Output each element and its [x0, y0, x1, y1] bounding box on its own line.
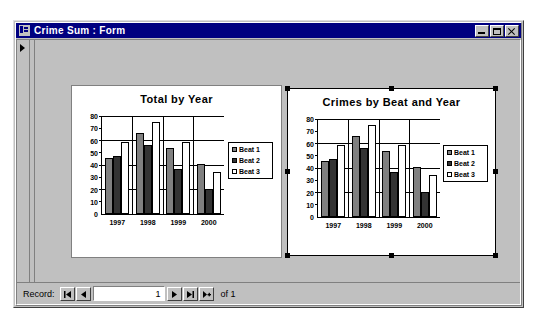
- chart1-bar-beat-2-1997: [113, 156, 121, 214]
- window-title: Crime Sum : Form: [34, 25, 475, 36]
- current-record-input[interactable]: [93, 286, 165, 301]
- chart2-bar-beat-2-1998: [360, 148, 368, 217]
- chart2-legend-item-beat-3: Beat 3: [447, 171, 485, 178]
- form-client-area: Total by Year 80 70 60 50 40 30 20 10 0: [16, 39, 521, 305]
- chart-crimes-by-beat-and-year[interactable]: Crimes by Beat and Year 80 70 60 50 40 3…: [287, 88, 496, 256]
- chart1-legend: Beat 1Beat 2Beat 3: [228, 142, 273, 179]
- legend-swatch-icon: [232, 158, 237, 163]
- chart2-ytick-20: 20: [306, 189, 314, 196]
- chart2-bar-beat-2-2000: [421, 192, 429, 217]
- close-button[interactable]: [505, 25, 519, 37]
- chart2-group-1998: [349, 119, 380, 217]
- chart1-group-1997: [102, 116, 133, 214]
- new-record-button[interactable]: [199, 287, 214, 301]
- minimize-icon: [478, 32, 485, 34]
- legend-swatch-icon: [447, 161, 452, 166]
- chart1-bar-beat-1-2000: [197, 164, 205, 214]
- chart1-legend-item-beat-3: Beat 3: [232, 168, 270, 175]
- chart1-bar-beat-3-1999: [182, 142, 190, 214]
- record-selector-arrow-icon: [20, 44, 25, 52]
- chart2-group-1997: [318, 119, 349, 217]
- resize-handle-top-right[interactable]: [493, 86, 498, 91]
- chart2-y-axis-labels: 80 70 60 50 40 30 20 10 0: [294, 119, 314, 217]
- chart1-bar-beat-1-1997: [105, 158, 113, 214]
- chart1-ytick-70: 70: [90, 125, 98, 132]
- chart2-group-1999: [380, 119, 411, 217]
- new-record-icon: [202, 290, 211, 299]
- legend-swatch-icon: [232, 147, 237, 152]
- chart1-title: Total by Year: [72, 93, 281, 105]
- chart2-xlabel-1998: 1998: [349, 222, 380, 229]
- chart1-x-axis-labels: 1997199819992000: [102, 219, 224, 226]
- form-window: Crime Sum : Form Total by Year: [13, 20, 524, 308]
- screen: Crime Sum : Form Total by Year: [0, 0, 539, 324]
- chart2-ytick-30: 30: [306, 177, 314, 184]
- legend-label: Beat 2: [454, 160, 475, 167]
- chart1-bar-groups: [102, 116, 224, 214]
- chart2-ytick-40: 40: [306, 165, 314, 172]
- chart2-legend-item-beat-2: Beat 2: [447, 160, 485, 167]
- chart2-bar-beat-2-1997: [329, 159, 337, 217]
- legend-label: Beat 1: [239, 146, 260, 153]
- chart2-xlabel-2000: 2000: [410, 222, 441, 229]
- chart1-ytick-0: 0: [94, 211, 98, 218]
- chart2-bar-beat-3-1997: [337, 145, 345, 217]
- chart2-xlabel-1999: 1999: [379, 222, 410, 229]
- chart2-bar-beat-3-1998: [368, 125, 376, 217]
- form-left-divider: [34, 40, 35, 282]
- next-record-icon: [170, 290, 179, 299]
- chart1-ytick-10: 10: [90, 198, 98, 205]
- last-record-icon: [186, 290, 195, 299]
- chart2-ytick-70: 70: [306, 128, 314, 135]
- chart1-bar-beat-2-2000: [205, 189, 213, 214]
- chart2-legend-item-beat-1: Beat 1: [447, 149, 485, 156]
- record-navigation-bar: Record: of 1: [17, 282, 520, 304]
- chart2-group-2000: [410, 119, 440, 217]
- chart1-ytick-20: 20: [90, 186, 98, 193]
- go-to-next-record-button[interactable]: [167, 287, 182, 301]
- chart1-bar-beat-1-1998: [136, 133, 144, 214]
- record-selector[interactable]: [17, 40, 30, 282]
- resize-handle-top-left[interactable]: [285, 86, 290, 91]
- chart2-plot: [317, 119, 440, 218]
- chart2-bar-beat-1-1998: [352, 136, 360, 217]
- title-bar[interactable]: Crime Sum : Form: [16, 23, 521, 38]
- chart1-plot-area: 80 70 60 50 40 30 20 10 0: [72, 112, 281, 257]
- chart1-bar-beat-1-1999: [166, 148, 174, 214]
- maximize-button[interactable]: [490, 25, 504, 37]
- chart1-plot: [101, 116, 224, 215]
- chart1-xlabel-1998: 1998: [133, 219, 164, 226]
- go-to-last-record-button[interactable]: [183, 287, 198, 301]
- legend-label: Beat 3: [454, 171, 475, 178]
- chart1-xlabel-2000: 2000: [194, 219, 225, 226]
- chart1-legend-item-beat-2: Beat 2: [232, 157, 270, 164]
- chart-total-by-year[interactable]: Total by Year 80 70 60 50 40 30 20 10 0: [71, 85, 282, 258]
- legend-label: Beat 3: [239, 168, 260, 175]
- resize-handle-top-center[interactable]: [389, 86, 394, 91]
- title-bar-buttons: [475, 25, 519, 37]
- chart1-ytick-50: 50: [90, 149, 98, 156]
- chart2-bar-beat-3-2000: [429, 175, 437, 217]
- chart2-xlabel-1997: 1997: [318, 222, 349, 229]
- chart1-bar-beat-3-1997: [121, 142, 129, 214]
- chart2-ytick-60: 60: [306, 140, 314, 147]
- chart2-bar-beat-1-2000: [413, 167, 421, 217]
- legend-label: Beat 2: [239, 157, 260, 164]
- minimize-button[interactable]: [475, 25, 489, 37]
- chart1-ytick-40: 40: [90, 162, 98, 169]
- go-to-previous-record-button[interactable]: [76, 287, 91, 301]
- form-detail-section[interactable]: Total by Year 80 70 60 50 40 30 20 10 0: [17, 40, 520, 282]
- chart2-ytick-0: 0: [310, 214, 314, 221]
- chart2-bar-groups: [318, 119, 440, 217]
- go-to-first-record-button[interactable]: [60, 287, 75, 301]
- chart1-bar-beat-3-1998: [152, 122, 160, 214]
- chart2-bar-beat-1-1999: [382, 151, 390, 217]
- chart2-bar-beat-3-1999: [398, 145, 406, 217]
- legend-swatch-icon: [232, 169, 237, 174]
- chart2-bar-beat-1-1997: [321, 161, 329, 217]
- chart1-bar-beat-2-1999: [174, 169, 182, 214]
- chart1-xlabel-1997: 1997: [102, 219, 133, 226]
- chart1-ytick-30: 30: [90, 174, 98, 181]
- access-form-icon: [18, 24, 31, 37]
- chart1-xlabel-1999: 1999: [163, 219, 194, 226]
